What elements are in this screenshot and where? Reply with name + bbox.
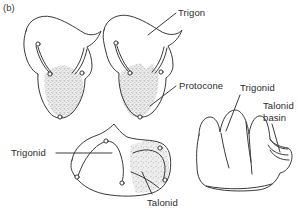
trigonid-groove-a [221, 133, 229, 168]
lower-molar-occlusal [71, 124, 171, 196]
cusp-protocone-right [128, 71, 132, 75]
cusp-protoconid [104, 139, 108, 143]
cusp-metacone-right [159, 70, 163, 74]
talonid-shaded-region [130, 140, 169, 193]
lateral-base-line [206, 184, 272, 189]
trigonid-crest-loop [78, 141, 123, 182]
cusp-entoconid [163, 178, 167, 182]
cusp-paracone-right [114, 41, 118, 45]
crest-line-right-d [155, 48, 167, 73]
label-trigon: Trigon [178, 7, 205, 18]
cusp-paracone-left [36, 42, 40, 46]
leader-line-talonid-basin [272, 124, 280, 152]
cusp-paraconid [75, 175, 79, 179]
crest-line-left-d [75, 49, 87, 74]
cusp-protocone-left [48, 72, 52, 76]
upper-molar-occlusal-right [103, 15, 182, 119]
label-protocone: Protocone [179, 80, 223, 91]
label-talonid: Talonid [147, 197, 178, 208]
cusp-hypocone-left [58, 115, 62, 119]
tribosphenic-molar-figure: (b) [0, 0, 298, 213]
crest-line-left-c [72, 48, 84, 73]
label-trigonid-lower: Trigonid [11, 147, 46, 158]
cusp-hypoconid [158, 146, 162, 150]
panel-letter: (b) [3, 2, 15, 13]
cusp-metaconid [120, 181, 124, 185]
label-trigonid-lateral: Trigonid [240, 82, 275, 93]
label-talonid-basin-line1: Talonid [263, 100, 294, 111]
upper-molar-occlusal-left [24, 16, 101, 119]
figure-linework [0, 0, 298, 213]
cusp-metacone-left [80, 71, 84, 75]
label-talonid-basin-line2: basin [263, 112, 286, 123]
cusp-hypocone-right [138, 115, 142, 119]
